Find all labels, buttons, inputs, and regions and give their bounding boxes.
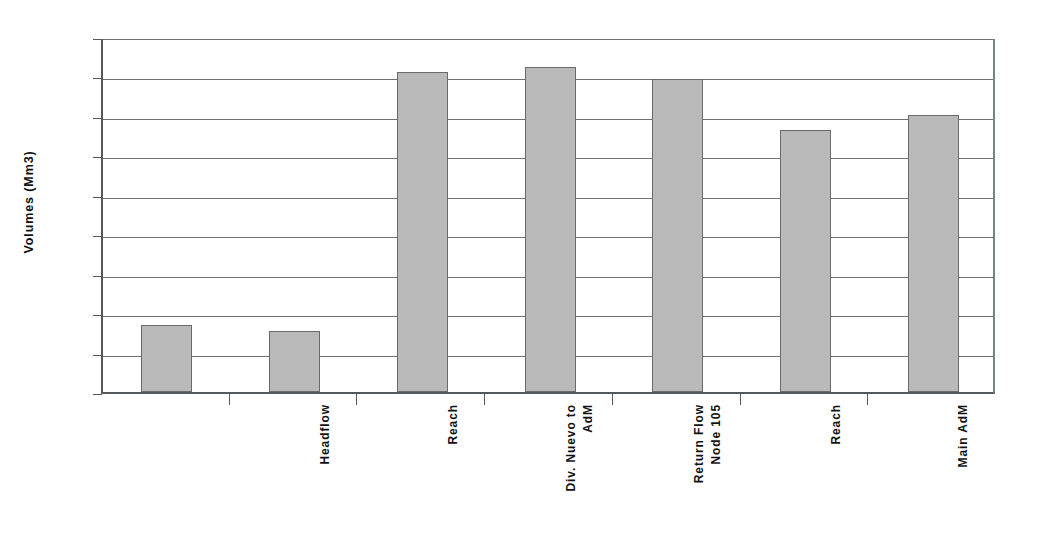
bar [525, 67, 576, 392]
x-tick-label: Return Flow Node 105 [691, 404, 725, 536]
x-tick-mark [484, 394, 485, 405]
x-tick-label: Div. Nuevo to AdM [563, 404, 597, 536]
bar [908, 115, 959, 392]
y-tick-mark [93, 355, 102, 356]
bar [652, 79, 703, 392]
plot-area [101, 39, 995, 394]
x-tick-mark [229, 394, 230, 405]
y-tick-mark [93, 157, 102, 158]
y-tick-mark [93, 276, 102, 277]
x-tick-label: Headflow [317, 404, 334, 536]
x-tick-mark [867, 394, 868, 405]
y-tick-mark [93, 78, 102, 79]
bar-chart: Volumes (Mm3) 25023021019017015013011090… [0, 0, 1043, 536]
y-tick-mark [93, 394, 102, 395]
y-tick-mark [93, 118, 102, 119]
y-tick-mark [93, 197, 102, 198]
x-tick-mark [740, 394, 741, 405]
y-axis-title: Volumes (Mm3) [22, 112, 36, 292]
y-tick-mark [93, 39, 102, 40]
y-tick-mark [93, 315, 102, 316]
x-tick-label: Main AdM [955, 404, 972, 536]
x-tick-label: Reach [445, 404, 462, 536]
bar [397, 72, 448, 392]
x-tick-mark [356, 394, 357, 405]
y-tick-mark [93, 236, 102, 237]
bar [269, 331, 320, 392]
x-tick-label: Reach [828, 404, 845, 536]
bar [780, 130, 831, 392]
bar [141, 325, 192, 392]
x-tick-mark [612, 394, 613, 405]
